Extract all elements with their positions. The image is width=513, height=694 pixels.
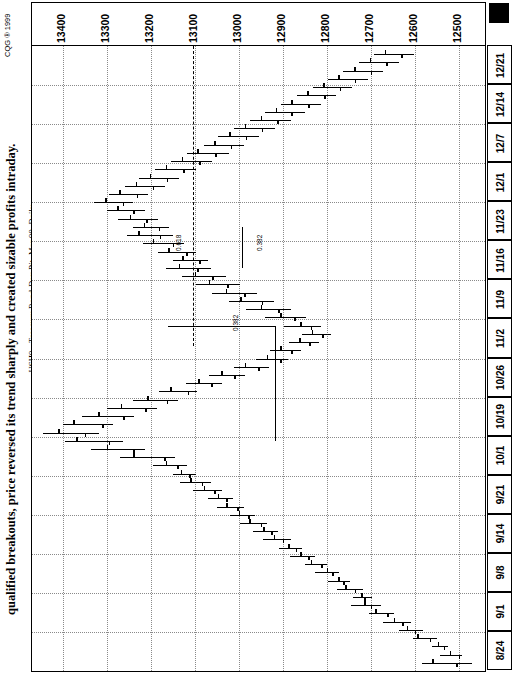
ohlc-bar — [302, 334, 331, 335]
ohlc-open-tick — [417, 634, 419, 638]
date-gridline — [32, 85, 485, 86]
ohlc-close-tick — [308, 556, 310, 560]
ohlc-close-tick — [137, 194, 139, 198]
ohlc-open-tick — [338, 577, 340, 581]
ohlc-close-tick — [186, 252, 188, 256]
ohlc-close-tick — [278, 309, 280, 313]
breakout-trendline-vertical — [275, 326, 276, 441]
ohlc-open-tick — [182, 256, 184, 260]
ohlc-bar — [63, 424, 113, 425]
ohlc-close-tick — [294, 317, 296, 321]
ohlc-bar — [328, 79, 368, 80]
ohlc-open-tick — [98, 412, 100, 416]
ohlc-bar — [359, 62, 399, 63]
ohlc-open-tick — [432, 659, 434, 663]
ohlc-open-tick — [119, 190, 121, 194]
price-tick-label: 13100 — [187, 0, 200, 43]
date-tick-cell[interactable]: 8/24 — [487, 631, 512, 670]
ohlc-close-tick — [262, 128, 264, 132]
retracement-bracket — [242, 227, 243, 268]
ohlc-bar — [279, 548, 302, 549]
price-tick-label: 13200 — [143, 0, 156, 43]
ohlc-bar — [180, 482, 211, 483]
ohlc-close-tick — [164, 457, 166, 461]
ohlc-close-tick — [456, 663, 458, 667]
ohlc-bar — [182, 276, 226, 277]
ohlc-bar — [374, 54, 414, 55]
price-tick-label: 12900 — [275, 0, 288, 43]
ohlc-bar — [353, 597, 372, 598]
ohlc-open-tick — [338, 75, 340, 79]
ohlc-open-tick — [288, 544, 290, 548]
ohlc-open-tick — [166, 461, 168, 465]
ohlc-open-tick — [147, 396, 149, 400]
ohlc-open-tick — [407, 626, 409, 630]
ohlc-bar — [315, 572, 339, 573]
ohlc-bar — [230, 515, 256, 516]
ohlc-close-tick — [371, 605, 373, 609]
ohlc-open-tick — [385, 50, 387, 54]
ohlc-bar — [133, 400, 178, 401]
ohlc-close-tick — [197, 268, 199, 272]
ohlc-close-tick — [308, 104, 310, 108]
ohlc-bar — [82, 416, 134, 417]
ohlc-open-tick — [375, 609, 377, 613]
fib-0618-label: 0.618 — [174, 217, 184, 251]
ohlc-close-tick — [355, 589, 357, 593]
ohlc-open-tick — [364, 601, 366, 605]
ohlc-close-tick — [261, 523, 263, 527]
date-gridline — [32, 163, 485, 164]
fib-0618-line — [193, 46, 194, 346]
ohlc-close-tick — [188, 391, 190, 395]
ohlc-close-tick — [214, 490, 216, 494]
ohlc-bar — [413, 638, 438, 639]
ohlc-bar — [186, 383, 222, 384]
ohlc-close-tick — [237, 507, 239, 511]
ohlc-close-tick — [109, 441, 111, 445]
ohlc-open-tick — [280, 346, 282, 350]
plot-area[interactable]: 0.6180.3820.382 — [32, 46, 485, 671]
ohlc-open-tick — [197, 149, 199, 153]
ohlc-bar — [432, 646, 448, 647]
ohlc-bar — [212, 293, 257, 294]
ohlc-open-tick — [361, 593, 363, 597]
ohlc-close-tick — [262, 301, 264, 305]
ohlc-open-tick — [261, 116, 263, 120]
ohlc-bar — [94, 202, 133, 203]
ohlc-open-tick — [214, 141, 216, 145]
ohlc-open-tick — [209, 280, 211, 284]
date-tick-label: 8/24 — [493, 621, 506, 681]
ohlc-bar — [369, 613, 394, 614]
ohlc-close-tick — [387, 613, 389, 617]
price-tick-label: 12500 — [451, 0, 464, 43]
ohlc-bar — [313, 87, 353, 88]
ohlc-open-tick — [76, 437, 78, 441]
ohlc-open-tick — [307, 91, 309, 95]
selection-marker[interactable] — [489, 3, 509, 23]
ohlc-open-tick — [345, 585, 347, 589]
ohlc-bar — [43, 433, 98, 434]
ohlc-bar — [290, 556, 316, 557]
ohlc-bar — [173, 474, 197, 475]
ohlc-open-tick — [182, 157, 184, 161]
ohlc-close-tick — [123, 202, 125, 206]
ohlc-bar — [217, 507, 244, 508]
ohlc-close-tick — [248, 515, 250, 519]
ohlc-bar — [256, 359, 288, 360]
ohlc-open-tick — [261, 305, 263, 309]
ohlc-close-tick — [159, 227, 161, 231]
ohlc-bar — [139, 178, 179, 179]
price-axis: 1340013300132001310013000129001280012700… — [31, 2, 486, 45]
ohlc-close-tick — [343, 581, 345, 585]
ohlc-close-tick — [244, 293, 246, 297]
ohlc-close-tick — [211, 383, 213, 387]
ohlc-bar — [196, 284, 241, 285]
ohlc-close-tick — [283, 539, 285, 543]
ohlc-close-tick — [355, 79, 357, 83]
cqg-copyright: CQG ® 1999 — [2, 0, 14, 57]
ohlc-open-tick — [370, 58, 372, 62]
ohlc-close-tick — [160, 235, 162, 239]
ohlc-open-tick — [218, 494, 220, 498]
ohlc-open-tick — [190, 478, 192, 482]
ohlc-open-tick — [133, 453, 135, 457]
